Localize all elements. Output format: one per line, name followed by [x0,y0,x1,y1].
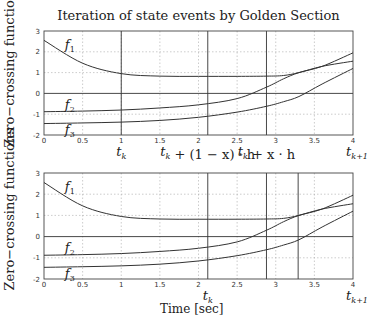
y-tick-label: -2 [33,276,40,284]
curve-label-f3: f3 [64,266,75,283]
y-tick-label: 0 [36,233,40,241]
curve-label-f1: f1 [64,179,75,196]
annotation-label: tk+1 [346,144,368,161]
chart-canvas: 00.511.522.533.543210-1-2f1f2f3tktk + (1… [0,0,384,326]
curve-label-f3: f3 [64,122,75,139]
x-tick-label: 3.5 [309,137,320,145]
series-f2 [44,53,353,112]
x-tick-label: 4 [351,137,356,145]
curve-label-f1: f1 [64,37,75,54]
y-tick-label: 3 [36,170,40,178]
y-tick-label: -2 [33,132,40,140]
curve-label-f2: f2 [64,97,75,114]
y-tick-label: 1 [36,212,40,220]
x-tick-label: 4 [351,281,356,289]
y-tick-label: 1 [36,69,40,77]
y-tick-label: 0 [36,90,40,98]
series-f2 [44,195,353,255]
annotation-label: tk [203,288,213,305]
plot-1: 00.511.522.533.543210-1-2f1f2f3tktk + (1… [33,28,368,163]
x-tick-label: 1.5 [154,281,165,289]
x-tick-label: 2 [196,137,200,145]
x-tick-label: 3.5 [309,281,320,289]
x-tick-label: 0.5 [77,137,88,145]
y-tick-label: -1 [33,254,40,262]
plot-2: 00.511.522.533.543210-1-2f1f2f3tktk+1 [33,170,368,306]
x-tick-label: 2.5 [232,281,243,289]
x-tick-label: 0 [42,137,46,145]
x-tick-label: 1 [119,281,123,289]
curve-label-f2: f2 [64,240,75,257]
annotation-label: tk [116,144,126,161]
x-tick-label: 0.5 [77,281,88,289]
x-tick-label: 3 [274,137,278,145]
y-tick-label: 3 [36,28,40,36]
y-tick-label: -1 [33,111,40,119]
annotation-label: tk+1 [346,288,368,305]
x-tick-label: 3 [274,281,278,289]
x-tick-label: 0 [42,281,46,289]
y-tick-label: 2 [36,191,40,199]
x-tick-label: 2 [196,281,200,289]
y-tick-label: 2 [36,48,40,56]
